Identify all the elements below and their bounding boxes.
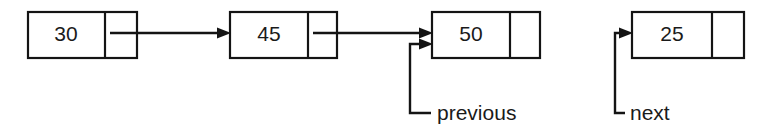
list-node-45[interactable]: 45 (230, 12, 337, 58)
node-box-outline (432, 12, 540, 58)
pointer-arrow-head-icon (419, 39, 433, 50)
linked-list-diagram: 30 45 50 25 (0, 0, 766, 136)
node-box-outline (28, 12, 137, 58)
node-value-label: 45 (257, 22, 280, 45)
pointer-elbow-line (615, 33, 625, 113)
list-node-30[interactable]: 30 (28, 12, 137, 58)
node-box-outline (632, 12, 744, 58)
node-value-label: 50 (459, 22, 482, 45)
pointer-label-next: next (630, 101, 670, 124)
diagram-canvas-svg: 30 45 50 25 (0, 0, 766, 136)
list-node-50[interactable]: 50 (432, 12, 540, 58)
node-value-label: 25 (660, 22, 683, 45)
node-value-label: 30 (54, 22, 77, 45)
pointer-elbow-line (410, 44, 431, 113)
link-arrow-head-icon (217, 28, 231, 39)
list-node-25[interactable]: 25 (632, 12, 744, 58)
node-box-outline (230, 12, 337, 58)
pointer-label-previous: previous (437, 101, 516, 124)
link-arrow-head-icon (419, 28, 433, 39)
